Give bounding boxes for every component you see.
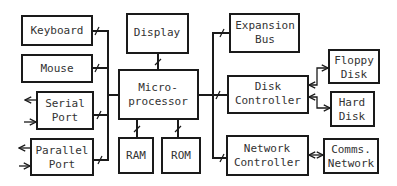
block-floppy-disk: Floppy Disk: [329, 50, 379, 83]
block-label: Controller: [234, 156, 301, 169]
block-mouse: Mouse: [22, 55, 92, 82]
block-label: Display: [134, 26, 181, 39]
block-label: Bus: [255, 33, 275, 46]
left-bus: [92, 27, 119, 164]
block-expansion-bus: Expansion Bus: [230, 14, 299, 52]
block-label: processor: [128, 95, 188, 108]
block-label: Keyboard: [31, 24, 84, 37]
block-label: Comms.: [331, 143, 371, 156]
block-keyboard: Keyboard: [22, 16, 92, 45]
block-serial-port: Serial Port: [37, 92, 93, 129]
block-label: Disk: [255, 80, 282, 93]
block-comms-network: Comms. Network: [324, 139, 378, 173]
block-label: Serial: [45, 97, 85, 110]
block-display: Display: [127, 14, 188, 53]
block-diagram: Keyboard Mouse Serial Port Parallel Port…: [0, 0, 397, 186]
block-label: Mouse: [40, 62, 73, 75]
block-label: Parallel: [36, 144, 89, 157]
block-label: RAM: [126, 149, 146, 162]
block-hard-disk: Hard Disk: [331, 92, 374, 126]
block-microprocessor: Micro- processor: [119, 70, 198, 119]
block-label: Network: [244, 142, 291, 155]
block-label: Micro-: [138, 81, 178, 94]
block-label: Floppy: [334, 54, 374, 67]
block-label: Port: [49, 158, 76, 171]
block-label: Controller: [235, 94, 302, 107]
block-label: Expansion: [235, 19, 295, 32]
block-ram: RAM: [119, 138, 153, 173]
block-label: Disk: [339, 110, 366, 123]
block-label: Network: [328, 157, 375, 170]
block-network-controller: Network Controller: [227, 136, 308, 175]
block-rom: ROM: [162, 138, 200, 173]
block-label: Disk: [341, 68, 368, 81]
block-disk-controller: Disk Controller: [228, 76, 308, 113]
block-parallel-port: Parallel Port: [31, 139, 93, 175]
block-label: ROM: [171, 149, 191, 162]
block-label: Hard: [339, 96, 366, 109]
right-bus: [198, 29, 230, 162]
block-label: Port: [52, 111, 79, 124]
